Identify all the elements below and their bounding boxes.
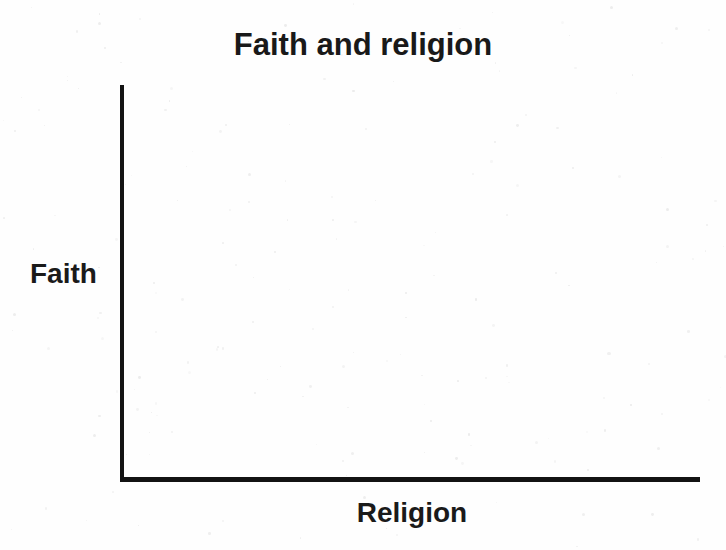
y-axis-line: [120, 85, 124, 482]
x-axis-line: [120, 477, 700, 482]
y-axis-label: Faith: [30, 258, 97, 290]
plot-area: [124, 85, 700, 477]
x-axis-label: Religion: [0, 497, 726, 529]
figure-canvas: Faith and religion Faith Religion: [0, 0, 726, 550]
chart-title: Faith and religion: [0, 28, 726, 62]
